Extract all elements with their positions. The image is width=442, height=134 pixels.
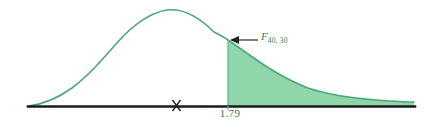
callout-arrow-icon (230, 36, 258, 44)
distribution-label: F40, 30 (261, 31, 288, 45)
density-curve (29, 10, 414, 106)
distribution-subscript: 40, 30 (268, 36, 288, 45)
critical-value-label: 1.79 (210, 107, 250, 119)
distribution-symbol: F (261, 30, 268, 42)
right-tail-shaded-region (228, 40, 414, 106)
distribution-figure: F40, 30 1.79 (0, 0, 442, 134)
